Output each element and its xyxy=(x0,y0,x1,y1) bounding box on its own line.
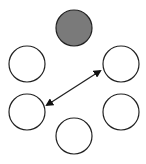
node-top-circle xyxy=(56,10,92,46)
node-lower-right-circle xyxy=(103,94,139,130)
node-lower-left-circle xyxy=(9,94,45,130)
node-upper-left-circle xyxy=(9,46,45,82)
node-upper-right-circle xyxy=(103,46,139,82)
double-arrow-edge xyxy=(47,71,100,105)
node-bottom-circle xyxy=(56,118,92,154)
circle-diagram xyxy=(0,0,146,164)
